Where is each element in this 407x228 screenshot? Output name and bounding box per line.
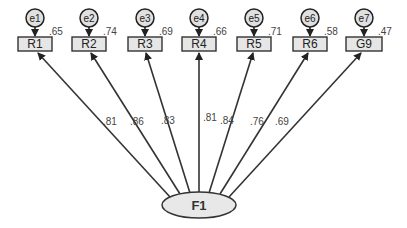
error-label-e1: e1 <box>29 13 41 24</box>
indicator-g9: e7 G9 .47 <box>346 9 392 51</box>
loading-r5: .84 <box>220 115 234 126</box>
loading-r2: .86 <box>130 116 144 127</box>
error-label-e6: e6 <box>304 13 316 24</box>
indicator-r5: e5 R5 .71 <box>237 9 282 51</box>
r2-r3: .69 <box>159 26 173 37</box>
loading-r1: .81 <box>103 116 117 127</box>
indicator-r4: e4 R4 .66 <box>182 9 227 51</box>
error-label-e2: e2 <box>83 13 95 24</box>
factor-label: F1 <box>191 198 206 213</box>
label-r3: R3 <box>137 37 153 51</box>
indicator-r3: e3 R3 .69 <box>128 9 173 51</box>
label-r1: R1 <box>27 37 43 51</box>
error-label-e5: e5 <box>248 13 260 24</box>
label-r5: R5 <box>246 37 262 51</box>
r2-r4: .66 <box>213 26 227 37</box>
r2-g9: .47 <box>378 26 392 37</box>
label-r2: R2 <box>81 37 97 51</box>
indicator-r6: e6 R6 .58 <box>293 9 338 51</box>
loading-r3: .83 <box>161 115 175 126</box>
label-g9: G9 <box>356 37 372 51</box>
label-r6: R6 <box>302 37 318 51</box>
loading-r6: .76 <box>250 116 264 127</box>
loading-r4: .81 <box>203 112 217 123</box>
r2-r2: .74 <box>103 26 117 37</box>
error-label-e4: e4 <box>193 13 205 24</box>
r2-r5: .71 <box>268 26 282 37</box>
cfa-diagram: .81 .86 .83 .81 .84 .76 .69 e1 R1 .65 e2… <box>0 0 407 228</box>
error-label-e3: e3 <box>139 13 151 24</box>
r2-r1: .65 <box>49 26 63 37</box>
loading-g9: .69 <box>275 116 289 127</box>
error-label-e7: e7 <box>358 13 370 24</box>
label-r4: R4 <box>191 37 207 51</box>
loading-labels: .81 .86 .83 .81 .84 .76 .69 <box>103 112 289 127</box>
indicator-r2: e2 R2 .74 <box>72 9 117 51</box>
indicator-r1: e1 R1 .65 <box>18 9 63 51</box>
factor-f1: F1 <box>162 192 236 218</box>
r2-r6: .58 <box>324 26 338 37</box>
loading-paths <box>38 53 361 197</box>
